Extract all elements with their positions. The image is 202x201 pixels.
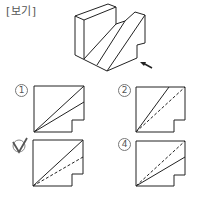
- option-4-figure: [136, 141, 185, 186]
- option-3-figure: [33, 140, 83, 186]
- option-2-marker[interactable]: 2: [118, 84, 131, 97]
- diagram-canvas: [0, 0, 202, 201]
- option-1-marker[interactable]: 1: [15, 84, 28, 97]
- view-direction-arrow-icon: [140, 62, 152, 68]
- option-2-figure: [136, 87, 185, 132]
- check-mark-icon: [13, 138, 27, 152]
- option-4-marker[interactable]: 4: [118, 138, 131, 151]
- option-1-figure: [34, 86, 84, 132]
- isometric-block: [75, 4, 145, 71]
